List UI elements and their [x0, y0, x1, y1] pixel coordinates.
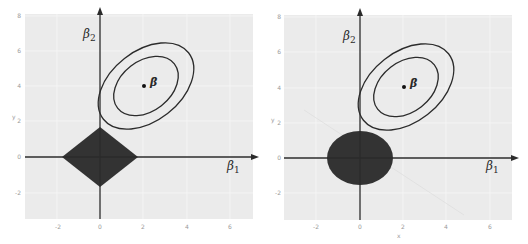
- svg-text:-2: -2: [55, 223, 61, 230]
- plot-background: [284, 15, 512, 220]
- svg-text:6: 6: [488, 223, 492, 230]
- lasso-plot: 8 6 4 2 0 -2 y -2 0 2 4 6: [0, 0, 264, 244]
- beta-hat-label: β̂: [409, 77, 418, 90]
- plot-background: [25, 14, 253, 219]
- svg-text:0: 0: [277, 154, 281, 161]
- x-arrow-icon: [511, 155, 519, 161]
- y-arrow-icon: [357, 8, 363, 16]
- svg-text:6: 6: [17, 47, 21, 54]
- svg-text:0: 0: [358, 223, 362, 230]
- svg-text:4: 4: [17, 82, 21, 89]
- svg-text:2: 2: [401, 223, 405, 230]
- svg-text:-2: -2: [313, 223, 319, 230]
- beta-hat-point: [142, 84, 146, 88]
- svg-text:2: 2: [17, 117, 21, 124]
- svg-text:8: 8: [277, 13, 281, 20]
- y-arrow-icon: [97, 7, 103, 15]
- svg-text:6: 6: [228, 223, 232, 230]
- beta-hat-label: β̂: [149, 76, 158, 89]
- svg-text:0: 0: [98, 223, 102, 230]
- svg-text:2: 2: [141, 223, 145, 230]
- svg-text:4: 4: [185, 223, 189, 230]
- x-arrow-icon: [251, 154, 259, 160]
- svg-text:-2: -2: [15, 189, 21, 196]
- lasso-panel: 8 6 4 2 0 -2 y -2 0 2 4 6: [0, 0, 264, 244]
- y-axis-title: y: [271, 116, 275, 124]
- svg-text:-2: -2: [275, 189, 281, 196]
- y-tick-labels: 8 6 4 2 0 -2: [15, 12, 21, 196]
- svg-text:0: 0: [17, 153, 21, 160]
- svg-text:6: 6: [277, 48, 281, 55]
- svg-text:4: 4: [444, 223, 448, 230]
- svg-text:2: 2: [277, 119, 281, 126]
- x-axis-title: x: [397, 232, 401, 239]
- svg-text:8: 8: [17, 12, 21, 19]
- ridge-panel: 8 6 4 2 0 -2 y -2 0 2 4 6 x β̂ β1: [264, 0, 528, 244]
- x-tick-labels: -2 0 2 4 6: [55, 223, 232, 230]
- y-axis-title: y: [12, 113, 16, 121]
- y-tick-labels: 8 6 4 2 0 -2: [275, 13, 281, 196]
- svg-text:4: 4: [277, 84, 281, 91]
- ridge-plot: 8 6 4 2 0 -2 y -2 0 2 4 6 x β̂ β1: [264, 0, 528, 244]
- x-tick-labels: -2 0 2 4 6: [313, 223, 492, 230]
- beta-hat-point: [402, 85, 406, 89]
